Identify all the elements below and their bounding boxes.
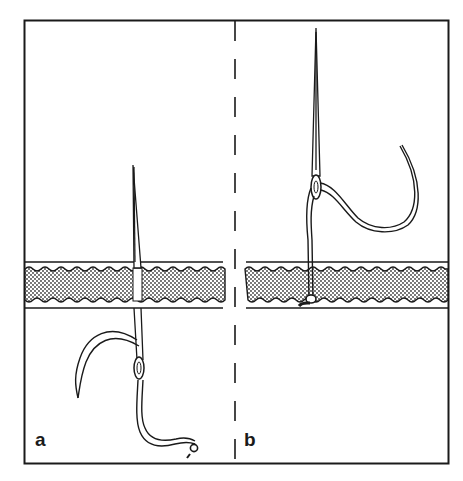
outer-frame [25, 21, 449, 464]
fabric-layer-b [245, 262, 448, 308]
panel-label-b: b [244, 430, 256, 449]
panel-label-a: a [35, 430, 46, 449]
needlework-diagram: a b [0, 0, 463, 481]
diagram-canvas [0, 0, 463, 481]
fabric-layer-a [25, 262, 225, 308]
needle-b [311, 28, 321, 199]
